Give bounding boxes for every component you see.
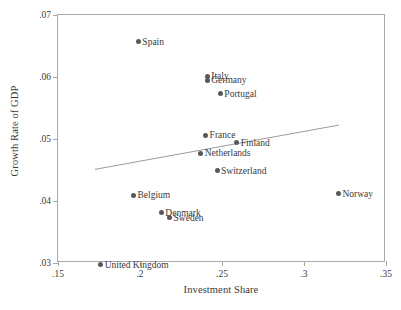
x-tick-label: .35: [380, 269, 392, 279]
x-tick-label: .2: [136, 269, 143, 279]
data-point: [234, 140, 239, 145]
data-point: [98, 262, 103, 267]
data-point: [336, 191, 341, 196]
y-tick-label: .05: [39, 134, 51, 144]
x-tick-mark: [386, 261, 387, 266]
x-tick-mark: [140, 261, 141, 266]
y-axis-title: Growth Rate of GDP: [4, 0, 24, 262]
data-point-label: Spain: [142, 37, 164, 47]
x-tick-label: .25: [216, 269, 228, 279]
x-tick-mark: [304, 261, 305, 266]
data-point: [203, 133, 208, 138]
data-point: [205, 78, 210, 83]
data-point-label: Finland: [241, 138, 270, 148]
x-tick-mark: [222, 261, 223, 266]
data-points-layer: SpainItalyGermanyPortugalFranceFinlandNe…: [58, 15, 384, 261]
data-point: [136, 39, 141, 44]
linear-fit-line: [95, 125, 339, 169]
data-point: [167, 215, 172, 220]
y-tick-label: .03: [39, 258, 51, 268]
y-tick-label: .04: [39, 196, 51, 206]
data-point-label: Portugal: [224, 89, 256, 99]
y-tick-mark: [53, 201, 58, 202]
plot-area: .03.04.05.06.07 .15.2.25.3.35 SpainItaly…: [57, 14, 385, 262]
x-tick-label: .3: [300, 269, 307, 279]
data-point-label: Belgium: [137, 190, 170, 200]
data-point: [205, 74, 210, 79]
data-point: [131, 193, 136, 198]
data-point-label: Italy: [211, 71, 228, 81]
data-point-label: Denmark: [165, 208, 200, 218]
data-point: [215, 168, 220, 173]
x-axis-title: Investment Share: [57, 284, 385, 295]
y-tick-mark: [53, 77, 58, 78]
y-tick-mark: [53, 139, 58, 140]
scatter-plot-figure: Growth Rate of GDP .03.04.05.06.07 .15.2…: [0, 0, 401, 310]
y-tick-label: .06: [39, 72, 51, 82]
fit-line-layer: [58, 15, 384, 261]
data-point-label: Germany: [211, 75, 246, 85]
data-point-label: Sweden: [174, 213, 204, 223]
data-point: [159, 210, 164, 215]
data-point-label: Netherlands: [205, 148, 251, 158]
data-point-label: France: [210, 130, 236, 140]
data-point-label: Switzerland: [221, 166, 266, 176]
y-tick-label: .07: [39, 10, 51, 20]
y-tick-mark: [53, 15, 58, 16]
data-point: [198, 151, 203, 156]
data-point-label: Norway: [342, 189, 373, 199]
x-tick-label: .15: [52, 269, 64, 279]
x-tick-mark: [58, 261, 59, 266]
data-point: [218, 91, 223, 96]
